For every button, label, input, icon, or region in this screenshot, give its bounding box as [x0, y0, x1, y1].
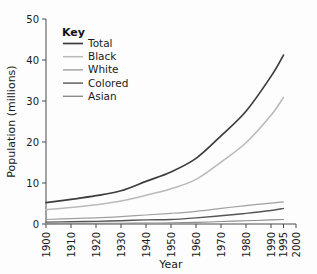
y-tick-label: 10: [26, 178, 39, 189]
y-axis-title: Population (millions): [5, 65, 18, 177]
series-line-white: [46, 202, 284, 220]
series-group: [46, 55, 284, 224]
x-tick-label: 1990: [266, 232, 277, 257]
legend: KeyTotalBlackWhiteColoredAsian: [62, 26, 128, 102]
x-tick-label: 1940: [141, 232, 152, 257]
x-axis: 1900191019201930194019501960197019801990…: [41, 224, 302, 271]
x-tick-label: 1950: [166, 232, 177, 257]
x-tick-label: 1910: [66, 232, 77, 257]
axes: [46, 19, 296, 224]
legend-label-colored: Colored: [88, 77, 128, 89]
axis-lines: [46, 19, 296, 224]
y-tick-label: 40: [26, 55, 39, 66]
x-tick-label: 1930: [116, 232, 127, 257]
series-line-total: [46, 55, 284, 203]
series-line-colored: [46, 208, 284, 222]
y-tick-label: 20: [26, 137, 39, 148]
x-tick-label: 1920: [91, 232, 102, 257]
x-tick-label: 1900: [41, 232, 52, 257]
legend-label-asian: Asian: [88, 90, 117, 102]
legend-label-black: Black: [88, 50, 117, 62]
legend-label-total: Total: [87, 37, 113, 49]
y-tick-label: 30: [26, 96, 39, 107]
x-tick-label: 1995: [278, 232, 289, 257]
series-line-black: [46, 97, 284, 209]
x-tick-label: 1970: [216, 232, 227, 257]
population-line-chart: 01020304050Population (millions)19001910…: [0, 0, 317, 274]
x-tick-label: 1960: [191, 232, 202, 257]
x-axis-title: Year: [158, 258, 183, 271]
y-axis: 01020304050Population (millions): [5, 14, 46, 230]
x-tick-label: 1980: [241, 232, 252, 257]
x-tick-label: 2000: [291, 232, 302, 257]
y-tick-label: 50: [26, 14, 39, 25]
chart-canvas: 01020304050Population (millions)19001910…: [0, 0, 317, 274]
legend-title: Key: [62, 26, 85, 39]
y-tick-label: 0: [33, 219, 39, 230]
legend-label-white: White: [88, 63, 119, 75]
